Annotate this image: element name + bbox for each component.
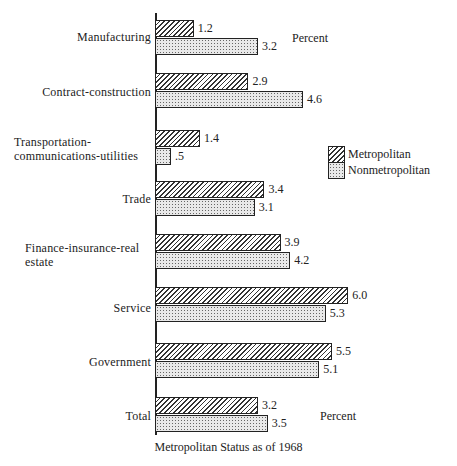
value-label: 5.5 [336, 344, 351, 358]
category-label-total: Total [126, 409, 152, 423]
value-label: 1.4 [204, 131, 219, 145]
value-label: 3.2 [262, 39, 277, 53]
category-label-service: Service [114, 301, 151, 315]
value-label: 4.2 [294, 253, 309, 267]
unit-label-top: Percent [292, 31, 328, 46]
bar-nonmetro [155, 361, 319, 378]
legend-label-nonmetropolitan: Nonmetropolitan [348, 162, 430, 179]
bar-nonmetro [155, 148, 171, 165]
legend-swatch-nonmetropolitan [328, 162, 345, 179]
legend-swatch-metropolitan [328, 146, 345, 163]
bar-nonmetro [155, 91, 303, 108]
bar-metro [155, 287, 348, 304]
value-label: 2.9 [252, 74, 267, 88]
legend-label-metropolitan: Metropolitan [348, 146, 411, 163]
category-label-manufacturing: Manufacturing [77, 30, 151, 44]
bar-nonmetro [155, 38, 258, 55]
value-label: 4.6 [307, 92, 322, 106]
category-label-finance: Finance-insurance-real estate [25, 241, 139, 269]
category-label-line2: communications-utilities [14, 149, 138, 163]
category-label-contract-construction: Contract-construction [42, 85, 151, 99]
value-label: 3.2 [262, 398, 277, 412]
bar-nonmetro [155, 199, 255, 216]
value-label: 3.9 [285, 235, 300, 249]
value-label: 1.2 [198, 21, 213, 35]
category-label-trade: Trade [122, 192, 151, 206]
value-label: .5 [175, 149, 184, 163]
x-axis-caption: Metropolitan Status as of 1968 [0, 440, 457, 455]
value-label: 3.4 [268, 182, 283, 196]
bar-metro [155, 397, 258, 414]
category-label-line1: Finance-insurance-real [25, 241, 139, 255]
bar-metro [155, 181, 264, 198]
value-label: 3.1 [259, 200, 274, 214]
bar-metro [155, 234, 281, 251]
value-label: 5.1 [323, 362, 338, 376]
bar-nonmetro [155, 252, 290, 269]
category-label-line1: Transportation- [14, 135, 138, 149]
category-label-line2: estate [25, 255, 139, 269]
value-label: 3.5 [272, 416, 287, 430]
bar-metro [155, 20, 194, 37]
bar-metro [155, 343, 332, 360]
bar-nonmetro [155, 305, 326, 322]
bar-nonmetro [155, 415, 268, 432]
category-label-government: Government [89, 355, 151, 369]
bar-metro [155, 73, 248, 90]
category-label-transportation: Transportation- communications-utilities [14, 135, 138, 163]
value-label: 5.3 [330, 306, 345, 320]
bar-metro [155, 130, 200, 147]
unit-label-bottom: Percent [320, 409, 356, 424]
value-label: 6.0 [352, 288, 367, 302]
